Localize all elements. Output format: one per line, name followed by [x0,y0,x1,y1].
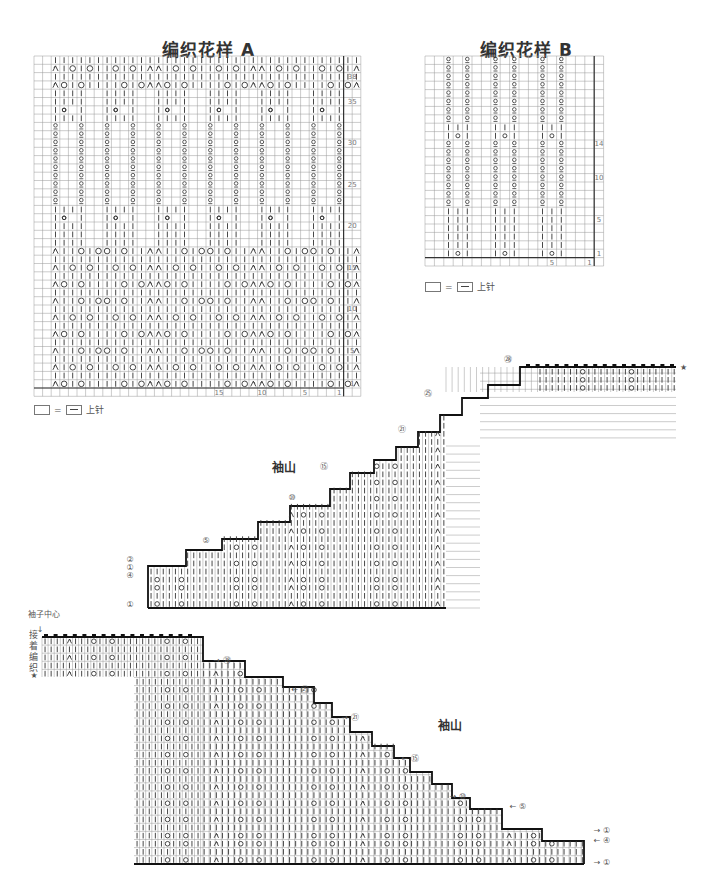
svg-text:10: 10 [594,174,603,182]
svg-text:→ ㉑: → ㉑ [341,713,358,722]
chart-a-grid: 3835302520151051151051 [34,56,374,396]
legend-purl-label: 上针 [477,280,495,293]
svg-text:1: 1 [587,259,591,267]
chart-b-grid: 14105151 [425,56,605,271]
empty-cell-icon [425,282,441,292]
svg-text:30: 30 [348,139,357,147]
svg-text:①: ① [126,600,133,609]
svg-text:5: 5 [597,216,601,224]
svg-text:20: 20 [348,222,357,230]
svg-text:★: ★ [30,671,37,680]
svg-text:㉕: ㉕ [424,389,432,398]
purl-cell-icon [457,282,473,292]
chart-b-legend: = 上针 [425,280,495,293]
svg-text:→ ㉘: → ㉘ [213,656,230,665]
svg-text:5: 5 [550,259,554,267]
svg-text:← ⑤: ← ⑤ [510,802,526,811]
svg-text:↓: ↓ [37,625,44,634]
svg-text:㉘: ㉘ [504,355,512,364]
svg-text:★: ★ [680,363,687,372]
svg-text:25: 25 [348,181,357,189]
svg-text:→ ⑩: → ⑩ [450,792,466,801]
sleeve-cap-top-chart: ★㉘㉕㉑⑮⑩⑤②①④① [0,350,722,620]
sleeve-center-label: 袖子中心 [28,608,60,619]
svg-text:㉑: ㉑ [398,425,406,434]
svg-text:14: 14 [594,140,603,148]
svg-text:⑤: ⑤ [202,536,209,545]
svg-text:④: ④ [126,571,133,580]
svg-text:← ㉕: ← ㉕ [291,685,308,694]
svg-text:10: 10 [348,305,357,313]
svg-text:⑮: ⑮ [320,462,328,471]
legend-equals: = [445,282,453,292]
svg-text:1: 1 [597,250,601,258]
svg-text:35: 35 [348,98,357,106]
svg-text:→ ①: → ① [594,858,610,867]
svg-text:38: 38 [348,73,357,81]
svg-text:← ④: ← ④ [594,836,610,845]
svg-text:← ⑮: ← ⑮ [401,754,418,763]
svg-text:→ ①: → ① [594,826,610,835]
svg-text:15: 15 [348,264,357,272]
svg-text:⑩: ⑩ [288,493,295,502]
sleeve-cap-bottom-chart: ★↓→ ㉘← ㉕→ ㉑← ⑮→ ⑩← ⑤→ ①← ④→ ① [0,620,722,896]
